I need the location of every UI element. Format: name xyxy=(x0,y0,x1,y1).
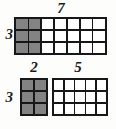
grid-cell xyxy=(16,43,28,53)
grid-cell xyxy=(75,104,84,114)
grid-cell xyxy=(81,31,93,41)
grid-cell xyxy=(81,43,93,53)
grid-cell xyxy=(54,104,63,114)
grid-cell xyxy=(42,43,54,53)
grid-cell xyxy=(22,92,33,102)
grid-cell xyxy=(22,80,33,90)
grid-cell xyxy=(93,31,105,41)
grid-cell xyxy=(55,31,67,41)
bottom-height-label-3: 3 xyxy=(0,90,13,105)
grid-cell xyxy=(22,104,33,114)
grid-cell xyxy=(97,92,106,102)
grid-cell xyxy=(16,31,28,41)
grid-cell xyxy=(68,31,80,41)
grid-cell xyxy=(29,43,41,53)
grid-cell xyxy=(86,80,95,90)
grid-cell xyxy=(55,19,67,29)
grid-cell xyxy=(55,43,67,53)
grid-cell xyxy=(65,92,74,102)
grid-cell xyxy=(65,104,74,114)
grid-cell xyxy=(68,43,80,53)
grid-cell xyxy=(81,19,93,29)
grid-cell xyxy=(29,31,41,41)
grid-cell xyxy=(86,104,95,114)
grid-cell xyxy=(54,92,63,102)
grid-cell xyxy=(35,80,46,90)
grid-cell xyxy=(93,19,105,29)
part-b-rectangle-grid xyxy=(52,78,108,116)
grid-cell xyxy=(75,92,84,102)
top-height-label-3: 3 xyxy=(0,27,13,42)
whole-rectangle-grid xyxy=(14,17,107,55)
grid-cell xyxy=(35,92,46,102)
diagram-canvas: 7 3 2 5 3 xyxy=(0,0,116,129)
grid-cell xyxy=(54,80,63,90)
part-a-rectangle-grid xyxy=(20,78,48,116)
part-a-width-label-2: 2 xyxy=(23,60,45,75)
grid-cell xyxy=(42,31,54,41)
grid-cell xyxy=(65,80,74,90)
grid-cell xyxy=(42,19,54,29)
grid-cell xyxy=(68,19,80,29)
grid-cell xyxy=(16,19,28,29)
grid-cell xyxy=(97,104,106,114)
grid-cell xyxy=(29,19,41,29)
grid-cell xyxy=(97,80,106,90)
part-b-width-label-5: 5 xyxy=(67,60,89,75)
top-width-label-7: 7 xyxy=(50,1,72,16)
grid-cell xyxy=(86,92,95,102)
grid-cell xyxy=(93,43,105,53)
grid-cell xyxy=(35,104,46,114)
grid-cell xyxy=(75,80,84,90)
